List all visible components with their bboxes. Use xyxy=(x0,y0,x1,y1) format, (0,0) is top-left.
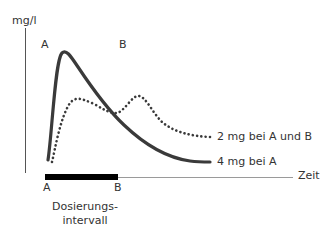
dosing-interval-line2: intervall xyxy=(45,214,125,228)
dosing-interval-bar xyxy=(45,174,118,180)
dose-marker-a-top: A xyxy=(41,39,49,51)
pharmacokinetic-diagram: mg/l A B A B Zeit 2 mg bei A und B 4 mg … xyxy=(0,0,330,235)
y-axis-label: mg/l xyxy=(12,15,36,27)
legend-4mg-a: 4 mg bei A xyxy=(217,156,277,168)
legend-2mg-a-and-b: 2 mg bei A und B xyxy=(217,131,312,143)
dosing-interval-line1: Dosierungs- xyxy=(45,200,125,214)
curve-2mg-a-and-b xyxy=(52,96,210,162)
dosing-interval-label: Dosierungs- intervall xyxy=(45,200,125,228)
dose-marker-b-bottom: B xyxy=(114,182,122,194)
x-axis-label: Zeit xyxy=(298,170,320,182)
dose-marker-b-top: B xyxy=(119,39,127,51)
dose-marker-a-bottom: A xyxy=(43,182,51,194)
curve-4mg-a xyxy=(48,52,210,162)
